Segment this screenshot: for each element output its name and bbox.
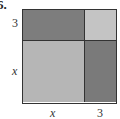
label-left-top: 3 xyxy=(12,16,18,31)
area-model-square xyxy=(22,9,117,104)
region-x-by-x xyxy=(23,41,85,102)
region-3-by-x xyxy=(85,41,116,102)
label-bottom-left: x xyxy=(50,106,55,119)
label-bottom-right: 3 xyxy=(97,106,103,119)
problem-number: 6. xyxy=(0,0,7,13)
region-x-by-3 xyxy=(23,10,85,41)
label-left-bottom: x xyxy=(12,64,17,79)
region-3-by-3 xyxy=(85,10,116,41)
